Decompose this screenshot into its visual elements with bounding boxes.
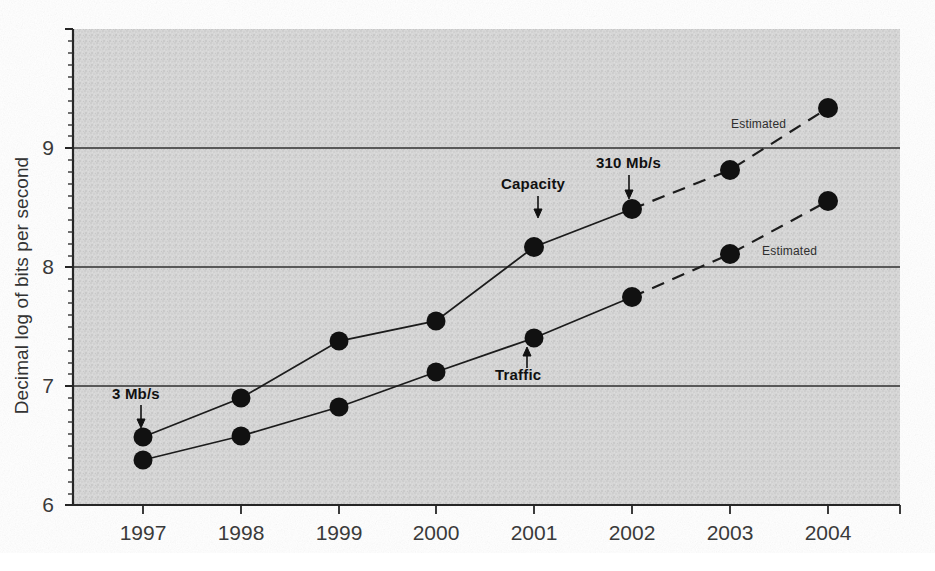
data-point [134, 451, 153, 470]
chart-figure: Decimal log of bits per second [0, 0, 935, 571]
x-tick-label-2003: 2003 [685, 521, 775, 545]
data-point [622, 199, 642, 219]
annotation-estimated-capacity: Estimated [731, 117, 786, 131]
data-point [622, 287, 642, 307]
x-tick-label-2001: 2001 [489, 521, 579, 545]
x-axis-ticks [143, 505, 900, 514]
x-tick-label-2002: 2002 [587, 521, 677, 545]
data-point [330, 332, 349, 351]
x-tick-label-1997: 1997 [98, 521, 188, 545]
annotation-traffic: Traffic [495, 366, 541, 383]
data-point [232, 427, 251, 446]
data-point [134, 428, 153, 447]
x-tick-label-2000: 2000 [391, 521, 481, 545]
data-point [818, 191, 838, 211]
x-tick-label-1998: 1998 [196, 521, 286, 545]
y-tick-label-8: 8 [24, 255, 54, 279]
annotation-estimated-traffic: Estimated [762, 244, 817, 258]
x-tick-label-2004: 2004 [783, 521, 873, 545]
annotation-capacity: Capacity [501, 175, 565, 192]
data-point [330, 398, 349, 417]
data-point [818, 98, 838, 118]
data-point [427, 312, 446, 331]
x-tick-label-1999: 1999 [294, 521, 384, 545]
data-point [232, 389, 251, 408]
data-point [427, 363, 446, 382]
chart-plot-svg [0, 0, 935, 571]
y-tick-label-9: 9 [24, 136, 54, 160]
data-point [524, 237, 544, 257]
y-tick-label-7: 7 [24, 374, 54, 398]
annotation-310-mbps: 310 Mb/s [596, 154, 661, 171]
y-tick-label-6: 6 [24, 493, 54, 517]
data-point [720, 244, 740, 264]
annotation-3-mbps: 3 Mb/s [112, 385, 160, 402]
data-point [720, 160, 740, 180]
data-point [525, 329, 544, 348]
